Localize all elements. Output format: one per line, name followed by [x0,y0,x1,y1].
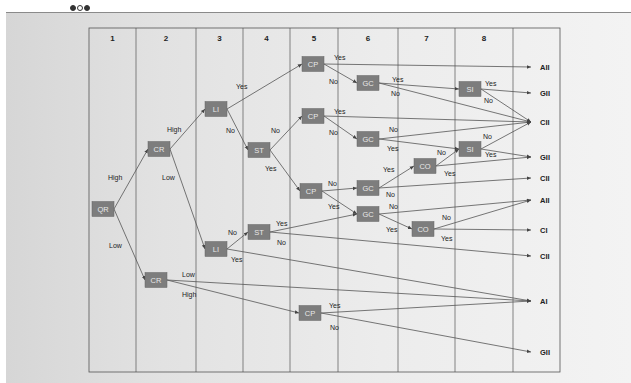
edge-label: No [277,239,286,246]
node-st: ST [248,143,270,158]
node-li: LI [205,242,227,257]
edge-label: Yes [485,151,497,158]
node-label: GC [362,79,374,88]
edge-arrow [322,188,357,191]
edge-label: No [228,229,237,236]
outcome-label: CII [540,252,550,261]
edge-label: No [484,97,493,104]
edge-label: Yes [386,226,398,233]
node-label: SI [466,145,473,154]
outcome-label: GII [540,153,550,162]
node-co: CO [414,159,436,174]
node-cp: CP [302,57,324,72]
edge-arrow [270,232,531,256]
node-label: CR [154,145,165,154]
node-cp: CP [299,306,321,321]
node-gc: GC [357,207,379,222]
edge-label: No [389,126,398,133]
edge-label: No [442,214,451,221]
node-label: CP [305,309,315,318]
node-label: LI [213,245,219,254]
node-cr: CR [148,142,170,157]
node-label: CP [308,60,318,69]
edge-label: Yes [383,166,395,173]
edge-arrow [227,249,531,301]
edge-arrow [434,229,531,230]
edge-arrow [321,313,531,352]
edge-arrow [170,149,205,249]
outcome-label: GII [540,348,550,357]
outcome-label: GII [540,89,550,98]
edge-label: Yes [329,302,341,309]
node-label: ST [254,228,264,237]
column-header: 4 [264,34,269,43]
node-qr: QR [92,202,114,217]
edge-label: No [437,149,446,156]
edge-label: No [329,129,338,136]
outcome-label: AII [540,196,550,205]
column-header: 2 [164,34,169,43]
edge-label: Yes [236,83,248,90]
edge-label: Yes [392,76,404,83]
node-label: GC [362,184,374,193]
edge-label: Yes [276,220,288,227]
column-header: 8 [482,34,487,43]
outcome-label: CII [540,118,550,127]
column-header: 6 [366,34,371,43]
node-label: GC [362,135,374,144]
decision-tree-diagram: 12345678 HighLowHighLowYesNoNoYesYesNoYe… [0,0,631,383]
edge-label: Yes [485,80,497,87]
edge-label: No [328,180,337,187]
edge-label: Yes [231,256,243,263]
node-si: SI [459,82,481,97]
node-cp: CP [300,184,322,199]
column-header: 7 [424,34,429,43]
node-gc: GC [357,181,379,196]
edge-label: High [108,174,123,182]
node-label: SI [466,85,473,94]
node-label: CO [419,162,430,171]
edge-label: Yes [328,203,340,210]
edge-label: No [329,78,338,85]
edge-arrow [324,116,531,122]
node-label: LI [213,105,219,114]
node-li: LI [205,102,227,117]
edge-arrow [167,280,531,301]
edge-label: No [391,90,400,97]
column-header: 5 [312,34,317,43]
node-label: ST [254,146,264,155]
node-label: CP [306,187,316,196]
node-st: ST [248,225,270,240]
edge-label: Low [182,271,196,278]
edge-label: No [271,127,280,134]
outcome-label: AI [540,297,548,306]
outcomes: AIIGIICIIGIICIIAIICICIIAIGII [540,63,550,357]
node-label: QR [97,205,109,214]
edge-label: No [483,133,492,140]
column-header: 1 [110,34,115,43]
edge-arrow [481,89,531,122]
node-gc: GC [357,132,379,147]
edge-label: Yes [387,145,399,152]
edge-label: High [167,126,182,134]
node-label: GC [362,210,374,219]
edge-arrow [321,301,531,313]
edge-arrow [481,89,531,93]
edge-label: Yes [265,165,277,172]
edge-label: No [389,203,398,210]
node-co: CO [412,222,434,237]
page: 12345678 HighLowHighLowYesNoNoYesYesNoYe… [0,0,631,383]
nodes: QRCRCRLILISTSTCPCPCPCPGCGCGCGCCOCOSISI [92,57,481,321]
edge-label: Yes [334,54,346,61]
outcome-label: CI [540,226,548,235]
node-label: CR [151,276,162,285]
edge-label: No [330,324,339,331]
edge-label: Low [109,242,123,249]
node-label: CP [308,112,318,121]
edge-label: High [182,291,197,299]
outcome-label: AII [540,63,550,72]
column-header: 3 [217,34,222,43]
edge-arrow [324,64,531,67]
edge-label: No [226,127,235,134]
edge-label: Yes [444,170,456,177]
